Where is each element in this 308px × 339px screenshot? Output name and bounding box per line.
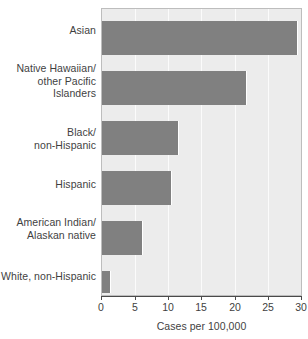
category-label-american-indian: American Indian/ Alaskan native xyxy=(0,216,96,241)
category-label-asian: Asian xyxy=(0,24,96,37)
bar-chart-figure: Asian Native Hawaiian/ other Pacific Isl… xyxy=(0,0,308,339)
x-tick-label-0: 0 xyxy=(98,301,104,313)
x-axis-ticks: 0 5 10 15 20 25 30 xyxy=(0,296,308,314)
bar-hispanic xyxy=(102,171,172,205)
bar-black xyxy=(102,121,179,155)
category-label-white: White, non-Hispanic xyxy=(0,270,96,283)
category-axis: Asian Native Hawaiian/ other Pacific Isl… xyxy=(0,8,96,296)
x-axis-title: Cases per 100,000 xyxy=(101,320,302,332)
x-tick-label-5: 5 xyxy=(132,301,138,313)
x-tick-label-25: 25 xyxy=(262,301,274,313)
x-tick-label-20: 20 xyxy=(229,301,241,313)
bar-american-indian xyxy=(102,221,143,255)
x-tick-label-15: 15 xyxy=(195,301,207,313)
x-tick-label-10: 10 xyxy=(162,301,174,313)
bar-asian xyxy=(102,21,298,55)
x-tick-label-30: 30 xyxy=(295,301,307,313)
category-label-native-hawaiian: Native Hawaiian/ other Pacific Islanders xyxy=(0,62,96,100)
plot-area xyxy=(101,8,302,296)
category-label-black: Black/ non-Hispanic xyxy=(0,126,96,151)
bar-white xyxy=(102,271,111,293)
bar-native-hawaiian xyxy=(102,71,247,105)
category-label-hispanic: Hispanic xyxy=(0,178,96,191)
